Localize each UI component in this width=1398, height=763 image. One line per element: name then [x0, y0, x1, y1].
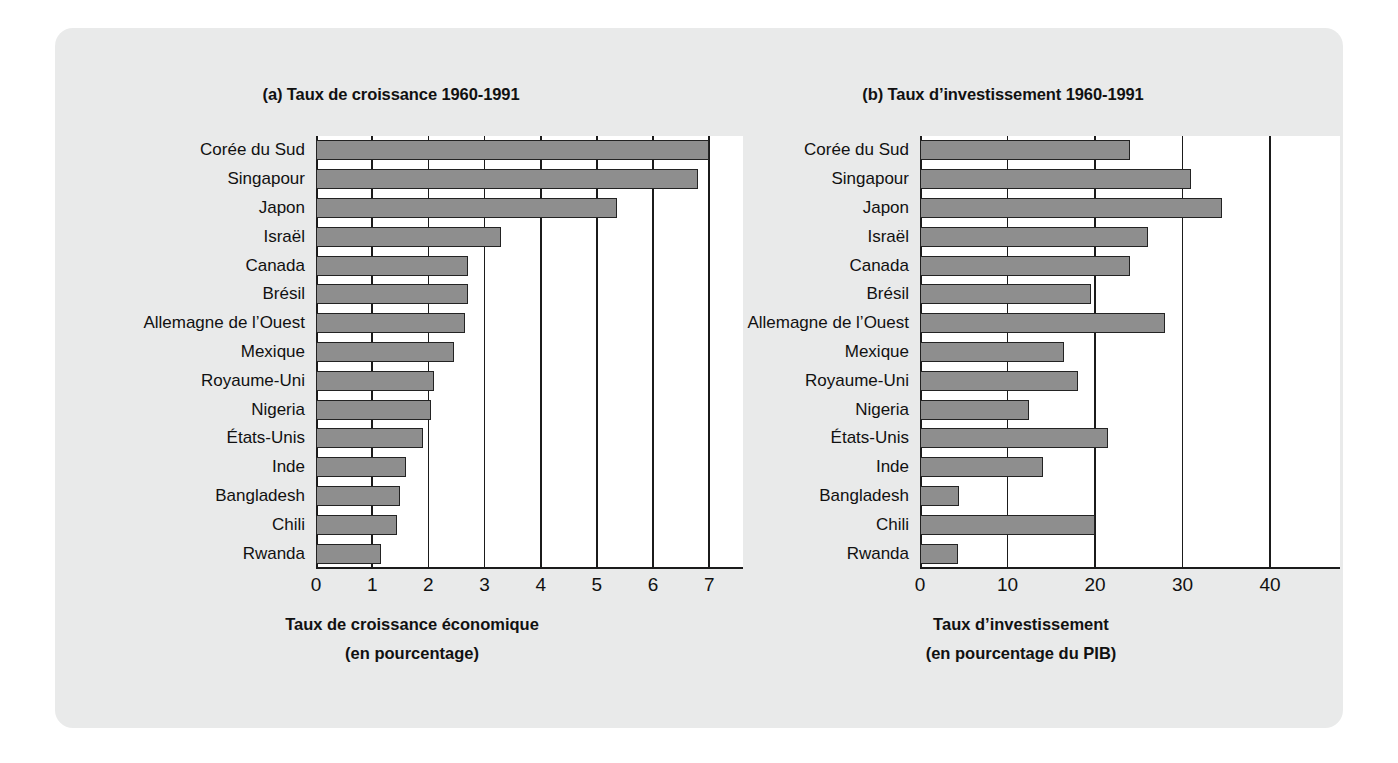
- category-label: Nigeria: [855, 400, 909, 420]
- chart-panel-b: (b) Taux d’investissement 1960-1991 Coré…: [693, 28, 1313, 728]
- bar: [316, 486, 400, 506]
- bar: [920, 284, 1091, 304]
- bar: [316, 544, 381, 564]
- bar: [316, 227, 501, 247]
- panel-b-title: (b) Taux d’investissement 1960-1991: [693, 85, 1313, 104]
- bar-row: États-Unis: [316, 428, 743, 448]
- bar-row: Mexique: [316, 342, 743, 362]
- bar-row: Nigeria: [920, 400, 1340, 420]
- category-label: Singapour: [831, 169, 909, 189]
- x-tick-label: 20: [1084, 574, 1105, 596]
- category-label: Canada: [849, 256, 909, 276]
- category-label: Nigeria: [251, 400, 305, 420]
- bar: [920, 544, 958, 564]
- bar: [316, 284, 468, 304]
- category-label: Brésil: [262, 284, 305, 304]
- category-label: Israël: [263, 227, 305, 247]
- bar-row: Japon: [920, 198, 1340, 218]
- category-label: Japon: [259, 198, 305, 218]
- panel-a-x-tick-labels: 01234567: [316, 574, 743, 600]
- category-label: Japon: [863, 198, 909, 218]
- bar: [920, 256, 1130, 276]
- bar: [316, 371, 434, 391]
- panel-a-plot-area: Corée du SudSingapourJaponIsraëlCanadaBr…: [316, 136, 743, 568]
- bar-row: Canada: [920, 256, 1340, 276]
- category-label: États-Unis: [831, 428, 909, 448]
- bar-row: Inde: [316, 457, 743, 477]
- category-label: Rwanda: [847, 544, 909, 564]
- bar: [920, 227, 1148, 247]
- bar-row: Royaume-Uni: [316, 371, 743, 391]
- bar: [920, 342, 1064, 362]
- bar: [920, 313, 1165, 333]
- bar-row: Israël: [920, 227, 1340, 247]
- bar: [316, 342, 454, 362]
- bar: [920, 371, 1078, 391]
- category-label: Royaume-Uni: [805, 371, 909, 391]
- bar-row: Allemagne de l’Ouest: [920, 313, 1340, 333]
- x-tick-label: 40: [1259, 574, 1280, 596]
- panel-a-title: (a) Taux de croissance 1960-1991: [81, 85, 701, 104]
- category-label: États-Unis: [227, 428, 305, 448]
- bar-row: Bangladesh: [920, 486, 1340, 506]
- bar: [920, 515, 1095, 535]
- category-label: Chili: [876, 515, 909, 535]
- category-label: Royaume-Uni: [201, 371, 305, 391]
- bar-row: Singapour: [920, 169, 1340, 189]
- category-label: Rwanda: [243, 544, 305, 564]
- category-label: Corée du Sud: [200, 140, 305, 160]
- bar-row: Japon: [316, 198, 743, 218]
- panel-b-xlabel-line1: Taux d’investissement: [693, 615, 1313, 634]
- bar-row: Mexique: [920, 342, 1340, 362]
- category-label: Allemagne de l’Ouest: [747, 313, 909, 333]
- bar: [316, 457, 406, 477]
- bar: [316, 515, 397, 535]
- panel-b-plot-area: Corée du SudSingapourJaponIsraëlCanadaBr…: [920, 136, 1340, 568]
- category-label: Chili: [272, 515, 305, 535]
- x-tick-label: 1: [367, 574, 378, 596]
- bar: [920, 400, 1029, 420]
- bar: [316, 169, 698, 189]
- bar: [920, 169, 1191, 189]
- category-label: Singapour: [227, 169, 305, 189]
- chart-panel-a: (a) Taux de croissance 1960-1991 Corée d…: [81, 28, 701, 728]
- x-tick-label: 3: [479, 574, 490, 596]
- bar-row: Corée du Sud: [920, 140, 1340, 160]
- bar-row: Corée du Sud: [316, 140, 743, 160]
- bar-row: Allemagne de l’Ouest: [316, 313, 743, 333]
- category-label: Mexique: [845, 342, 909, 362]
- category-label: Corée du Sud: [804, 140, 909, 160]
- bar-row: Chili: [920, 515, 1340, 535]
- bar-row: Canada: [316, 256, 743, 276]
- bar: [316, 313, 465, 333]
- panel-a-bar-rows: Corée du SudSingapourJaponIsraëlCanadaBr…: [316, 136, 743, 568]
- category-label: Canada: [245, 256, 305, 276]
- bar: [316, 140, 709, 160]
- bar-row: Brésil: [316, 284, 743, 304]
- bar: [920, 140, 1130, 160]
- category-label: Inde: [876, 457, 909, 477]
- bar-row: Inde: [920, 457, 1340, 477]
- panel-b-bar-rows: Corée du SudSingapourJaponIsraëlCanadaBr…: [920, 136, 1340, 568]
- panel-b-xlabel-line2: (en pourcentage du PIB): [693, 644, 1313, 663]
- bar: [316, 198, 617, 218]
- panel-a-xlabel-line2: (en pourcentage): [81, 644, 701, 663]
- category-label: Allemagne de l’Ouest: [143, 313, 305, 333]
- x-tick-label: 6: [648, 574, 659, 596]
- bar: [920, 457, 1043, 477]
- bar-row: Royaume-Uni: [920, 371, 1340, 391]
- bar-row: Chili: [316, 515, 743, 535]
- bar: [316, 400, 431, 420]
- bar: [920, 198, 1222, 218]
- x-tick-label: 5: [592, 574, 603, 596]
- figure-panel-container: (a) Taux de croissance 1960-1991 Corée d…: [55, 28, 1343, 728]
- bar-row: Rwanda: [920, 544, 1340, 564]
- category-label: Mexique: [241, 342, 305, 362]
- x-tick-label: 2: [423, 574, 434, 596]
- x-tick-label: 0: [915, 574, 926, 596]
- category-label: Inde: [272, 457, 305, 477]
- bar-row: Bangladesh: [316, 486, 743, 506]
- bar: [316, 428, 423, 448]
- bar: [920, 428, 1108, 448]
- bar-row: Rwanda: [316, 544, 743, 564]
